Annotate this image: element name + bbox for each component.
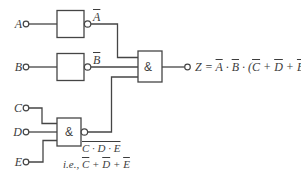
input-label-b: B	[8, 60, 22, 74]
terminal-e	[23, 159, 29, 165]
not-b-bubble-icon	[84, 64, 90, 70]
wire-label-b-bar: B	[93, 53, 100, 67]
terminal-b	[23, 64, 29, 70]
input-label-a: A	[8, 17, 22, 31]
terminal-a	[23, 21, 29, 27]
and-gate-symbol: &	[138, 60, 158, 74]
wire-input-c	[29, 108, 57, 124]
not-gate-a-body	[57, 11, 84, 38]
output-expression-z: Z = A · B · (C + D + E)	[195, 60, 301, 74]
terminal-c	[23, 105, 29, 111]
input-label-e: E	[8, 155, 22, 169]
logic-circuit-diagram: A B C D E & & A B C · D · E i.e., C + D …	[0, 0, 301, 179]
not-gate-b-body	[57, 54, 84, 81]
wire-input-e	[29, 141, 57, 163]
input-label-c: C	[8, 101, 22, 115]
not-a-bubble-icon	[84, 21, 90, 27]
terminal-d	[23, 129, 29, 135]
circuit-wiring	[0, 0, 301, 179]
nand-bubble-icon	[81, 129, 87, 135]
terminal-z	[185, 64, 191, 70]
note-ie-demorgan: i.e., C + D + E	[63, 157, 130, 171]
wire-nand-to-and	[88, 77, 138, 132]
wire-label-a-bar: A	[93, 10, 100, 24]
input-label-d: D	[8, 125, 22, 139]
nand-gate-symbol: &	[59, 125, 79, 139]
wire-label-cde-bar: C · D · E	[82, 141, 121, 155]
